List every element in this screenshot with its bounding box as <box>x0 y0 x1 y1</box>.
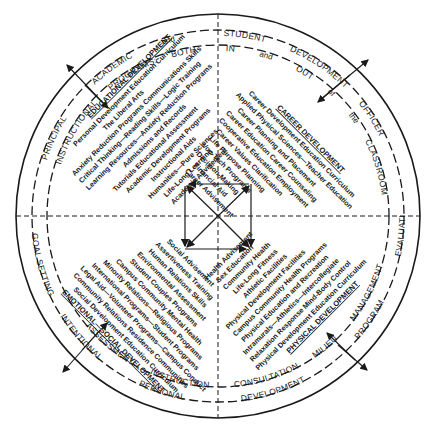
label-of: of <box>326 87 338 99</box>
label-out: OUT <box>294 63 316 81</box>
label-classroom: CLASSROOM <box>363 138 389 196</box>
label-the: the <box>347 111 361 126</box>
svg-text:OUT: OUT <box>294 63 316 81</box>
label-milieu: MILIEU <box>310 333 339 360</box>
label-in: IN <box>226 43 236 54</box>
svg-text:IN: IN <box>226 43 236 54</box>
svg-text:of: of <box>326 87 338 99</box>
svg-text:CLASSROOM: CLASSROOM <box>363 138 389 196</box>
label-goal-setting: GOAL SETTING <box>30 233 57 298</box>
label-and-mid: and <box>258 49 273 61</box>
svg-text:MILIEU: MILIEU <box>310 333 339 360</box>
label-officer: OFFICER <box>357 99 387 138</box>
svg-text:and: and <box>258 49 273 61</box>
svg-text:OFFICER: OFFICER <box>357 99 387 138</box>
svg-text:GOAL SETTING: GOAL SETTING <box>30 233 57 298</box>
svg-text:the: the <box>347 111 361 126</box>
student-development-wheel-diagram: PRINCIPAL ACADEMIC and STUDENT DEVELOPME… <box>0 0 427 432</box>
